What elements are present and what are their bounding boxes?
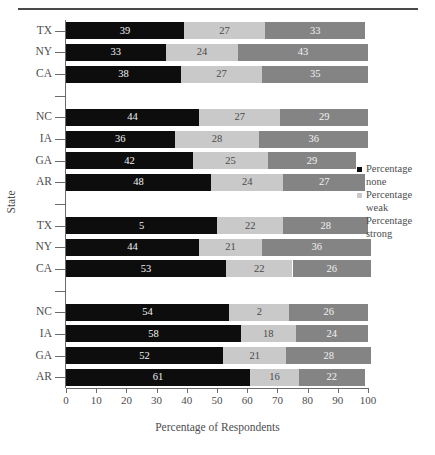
bar-segment-strong: 33 — [265, 22, 365, 39]
bar-value-label: 39 — [66, 26, 184, 37]
bar-value-label: 53 — [66, 264, 226, 275]
bar-segment-strong: 43 — [238, 44, 368, 61]
bar-segment-none: 52 — [66, 347, 223, 364]
legend-label: Percentage weak — [357, 189, 435, 214]
y-axis-tick — [55, 247, 65, 248]
y-axis-title: State — [5, 167, 17, 237]
bar-value-label: 27 — [184, 26, 266, 37]
bar-segment-strong: 26 — [289, 304, 368, 321]
bar-segment-strong: 28 — [286, 347, 371, 364]
bar-value-label: 54 — [66, 307, 229, 318]
bar-segment-none: 38 — [66, 66, 181, 83]
bar-segment-weak: 16 — [250, 369, 298, 386]
bar-value-label: 27 — [181, 69, 263, 80]
bar-segment-weak: 21 — [223, 347, 286, 364]
bar-row: 52228 — [66, 217, 368, 234]
y-axis-tick — [55, 291, 65, 292]
x-axis-tick — [247, 388, 248, 393]
bar-value-label: 27 — [199, 112, 281, 123]
bar-value-label: 38 — [66, 69, 181, 80]
y-axis-tick-label: AR — [0, 371, 52, 383]
bar-value-label: 29 — [268, 155, 356, 166]
bar-row: 392733 — [66, 22, 368, 39]
bar-segment-weak: 24 — [166, 44, 238, 61]
x-axis-tick — [368, 388, 369, 393]
x-axis-tick-label: 90 — [323, 395, 353, 406]
y-axis-tick — [55, 204, 65, 205]
x-axis-tick-label: 70 — [262, 395, 292, 406]
top-rule-divider — [18, 8, 418, 10]
y-axis-tick — [55, 139, 65, 140]
bar-value-label: 28 — [286, 350, 371, 361]
x-axis-tick — [157, 388, 158, 393]
bar-value-label: 28 — [283, 220, 368, 231]
x-axis-tick-label: 40 — [172, 395, 202, 406]
y-axis-tick-label: CA — [0, 263, 52, 275]
bar-value-label: 21 — [223, 350, 286, 361]
y-axis-tick-label: TX — [0, 25, 52, 37]
bar-value-label: 58 — [66, 329, 241, 340]
bar-segment-none: 53 — [66, 260, 226, 277]
y-axis-tick-label: NY — [0, 46, 52, 58]
x-axis-tick-label: 10 — [81, 395, 111, 406]
bar-segment-strong: 29 — [268, 152, 356, 169]
y-axis-tick-label: IA — [0, 133, 52, 145]
y-axis-tick-label: IA — [0, 328, 52, 340]
bar-segment-none: 44 — [66, 239, 199, 256]
bar-value-label: 44 — [66, 112, 199, 123]
bar-segment-none: 58 — [66, 325, 241, 342]
legend-swatch-icon — [357, 167, 362, 172]
bar-value-label: 48 — [66, 177, 211, 188]
bar-segment-strong: 27 — [283, 174, 365, 191]
bar-value-label: 43 — [238, 47, 368, 58]
bar-segment-weak: 18 — [241, 325, 295, 342]
x-axis-tick — [277, 388, 278, 393]
bar-segment-weak: 22 — [217, 217, 283, 234]
bar-value-label: 22 — [217, 220, 283, 231]
x-axis-title: Percentage of Respondents — [66, 421, 369, 433]
bar-row: 54226 — [66, 304, 368, 321]
bar-segment-weak: 27 — [184, 22, 266, 39]
bar-segment-strong: 36 — [262, 239, 371, 256]
bar-segment-weak: 24 — [211, 174, 283, 191]
bar-segment-strong: 29 — [280, 109, 368, 126]
bar-segment-none: 54 — [66, 304, 229, 321]
bar-value-label: 42 — [66, 155, 193, 166]
bar-row: 581824 — [66, 325, 368, 342]
bar-segment-weak: 2 — [229, 304, 289, 321]
bar-value-label: 61 — [66, 372, 250, 383]
y-axis-tick — [55, 31, 65, 32]
bar-row: 442729 — [66, 109, 368, 126]
x-axis-tick-label: 20 — [111, 395, 141, 406]
y-axis-tick — [55, 52, 65, 53]
y-axis-tick — [55, 226, 65, 227]
bar-segment-none: 36 — [66, 131, 175, 148]
y-axis-tick-label: CA — [0, 68, 52, 80]
bar-value-label: 52 — [66, 350, 223, 361]
bar-row: 442136 — [66, 239, 368, 256]
bar-segment-strong: 22 — [299, 369, 365, 386]
bar-value-label: 26 — [293, 264, 372, 275]
x-axis-tick-label: 0 — [51, 395, 81, 406]
bar-row: 422529 — [66, 152, 368, 169]
bar-segment-weak: 25 — [193, 152, 269, 169]
bar-value-label: 35 — [262, 69, 368, 80]
bar-segment-strong: 24 — [296, 325, 368, 342]
bar-value-label: 33 — [66, 47, 166, 58]
bar-segment-none: 33 — [66, 44, 166, 61]
legend-item: Percentage weak — [357, 189, 435, 214]
x-axis-tick — [96, 388, 97, 393]
bar-value-label: 44 — [66, 242, 199, 253]
y-axis-tick-label: NC — [0, 306, 52, 318]
figure-canvas: TXNYCANCIAGAARTXNYCANCIAGAAR 39273333244… — [0, 0, 435, 455]
bar-value-label: 36 — [66, 134, 175, 145]
bar-value-label: 36 — [259, 134, 368, 145]
x-axis-tick-label: 50 — [202, 395, 232, 406]
bar-segment-strong: 35 — [262, 66, 368, 83]
bar-value-label: 22 — [299, 372, 365, 383]
bar-value-label: 24 — [296, 329, 368, 340]
legend-label: Percentage none — [357, 163, 435, 188]
x-axis-tick-label: 30 — [142, 395, 172, 406]
x-axis-tick-label: 100 — [353, 395, 383, 406]
y-axis-tick-label: GA — [0, 350, 52, 362]
